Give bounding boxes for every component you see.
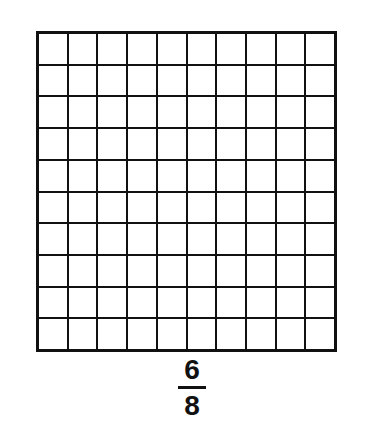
grid-cell[interactable] [158,224,186,254]
grid-cell[interactable] [188,161,216,191]
grid-cell[interactable] [217,34,245,64]
grid-cell[interactable] [217,288,245,318]
grid-cell[interactable] [306,129,334,159]
grid-cell[interactable] [247,288,275,318]
grid-cell[interactable] [98,34,126,64]
grid-cell[interactable] [128,97,156,127]
grid-cell[interactable] [217,97,245,127]
grid-cell[interactable] [39,319,67,349]
grid-cell[interactable] [98,319,126,349]
grid-cell[interactable] [306,34,334,64]
grid-cell[interactable] [247,193,275,223]
grid-cell[interactable] [277,256,305,286]
grid-cell[interactable] [247,66,275,96]
grid-cell[interactable] [128,256,156,286]
grid-cell[interactable] [188,66,216,96]
grid-cell[interactable] [69,66,97,96]
grid-cell[interactable] [98,224,126,254]
grid-cell[interactable] [188,193,216,223]
grid-cell[interactable] [277,97,305,127]
grid-cell[interactable] [39,97,67,127]
grid-cell[interactable] [247,34,275,64]
grid-cell[interactable] [217,319,245,349]
grid-cell[interactable] [217,129,245,159]
grid-cell[interactable] [188,319,216,349]
grid-cell[interactable] [69,193,97,223]
grid-cell[interactable] [158,288,186,318]
grid-cell[interactable] [128,224,156,254]
grid-cell[interactable] [128,193,156,223]
grid-cell[interactable] [247,161,275,191]
grid-cell[interactable] [277,288,305,318]
grid-cell[interactable] [306,193,334,223]
grid-cell[interactable] [158,66,186,96]
grid-cell[interactable] [277,161,305,191]
grid-cell[interactable] [158,34,186,64]
grid-cell[interactable] [217,224,245,254]
grid-cell[interactable] [39,66,67,96]
grid-cell[interactable] [39,193,67,223]
grid-cell[interactable] [128,288,156,318]
grid-cell[interactable] [98,66,126,96]
grid-cell[interactable] [128,34,156,64]
grid-cell[interactable] [217,193,245,223]
grid-cell[interactable] [306,256,334,286]
grid-cell[interactable] [306,224,334,254]
grid-cell[interactable] [128,319,156,349]
grid-cell[interactable] [188,97,216,127]
grid-cell[interactable] [69,224,97,254]
grid-cell[interactable] [217,256,245,286]
grid-cell[interactable] [69,97,97,127]
grid-cell[interactable] [306,66,334,96]
grid-cell[interactable] [98,193,126,223]
grid-cell[interactable] [306,288,334,318]
grid-cell[interactable] [158,256,186,286]
grid-cell[interactable] [39,224,67,254]
grid-cell[interactable] [158,97,186,127]
grid-cell[interactable] [158,193,186,223]
grid-cell[interactable] [306,97,334,127]
grid-cell[interactable] [247,224,275,254]
grid-cell[interactable] [188,129,216,159]
grid-cell[interactable] [277,129,305,159]
grid-cell[interactable] [69,256,97,286]
grid-cell[interactable] [128,66,156,96]
grid-cell[interactable] [39,161,67,191]
grid-cell[interactable] [277,224,305,254]
grid-cell[interactable] [247,129,275,159]
grid-cell[interactable] [128,161,156,191]
grid-cell[interactable] [98,97,126,127]
grid-cell[interactable] [98,161,126,191]
grid-cell[interactable] [39,34,67,64]
grid-cell[interactable] [277,319,305,349]
grid-cell[interactable] [188,224,216,254]
grid-cell[interactable] [98,256,126,286]
grid-cell[interactable] [98,288,126,318]
hundredths-grid[interactable] [36,31,337,352]
grid-cell[interactable] [188,34,216,64]
grid-cell[interactable] [128,129,156,159]
grid-cell[interactable] [277,66,305,96]
grid-cell[interactable] [69,161,97,191]
grid-cell[interactable] [69,34,97,64]
grid-cell[interactable] [247,256,275,286]
grid-cell[interactable] [247,319,275,349]
grid-cell[interactable] [217,161,245,191]
grid-cell[interactable] [158,129,186,159]
grid-cell[interactable] [306,161,334,191]
grid-cell[interactable] [158,161,186,191]
grid-cell[interactable] [98,129,126,159]
grid-cell[interactable] [39,256,67,286]
grid-cell[interactable] [158,319,186,349]
grid-cell[interactable] [277,34,305,64]
grid-cell[interactable] [39,129,67,159]
grid-cell[interactable] [39,288,67,318]
grid-cell[interactable] [188,256,216,286]
grid-cell[interactable] [306,319,334,349]
grid-cell[interactable] [188,288,216,318]
grid-cell[interactable] [69,319,97,349]
grid-cell[interactable] [69,288,97,318]
grid-cell[interactable] [277,193,305,223]
grid-cell[interactable] [69,129,97,159]
grid-cell[interactable] [247,97,275,127]
